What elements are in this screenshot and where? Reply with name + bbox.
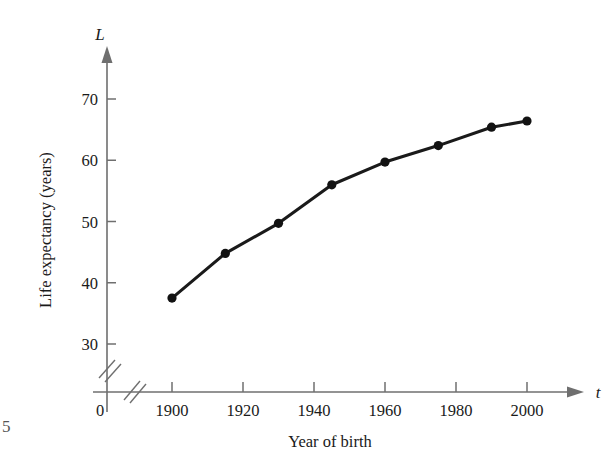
data-point-1915	[221, 249, 230, 258]
x-axis-title: Year of birth	[288, 432, 372, 451]
data-point-1930	[274, 219, 283, 228]
data-point-1990	[487, 123, 496, 132]
y-axis-title: Life expectancy (years)	[36, 152, 55, 308]
y-tick-label-70: 70	[82, 90, 99, 109]
page-margin-number: 5	[2, 417, 11, 436]
x-axis-variable-label: t	[596, 383, 602, 402]
y-axis-break-marks	[99, 360, 121, 382]
x-tick-label-1900: 1900	[156, 401, 189, 420]
y-axis-variable-label: L	[94, 25, 104, 44]
figure-container: 70 60 50 40 30 L Life expectancy (years)	[0, 0, 616, 467]
y-axis-group: 70 60 50 40 30 L Life expectancy (years)	[36, 25, 121, 412]
data-point-1945	[327, 180, 336, 189]
x-tick-label-1920: 1920	[227, 401, 260, 420]
life-expectancy-line-chart: 70 60 50 40 30 L Life expectancy (years)	[0, 0, 616, 467]
y-tick-label-50: 50	[82, 213, 99, 232]
data-series-life-expectancy	[167, 116, 531, 302]
x-tick-label-1960: 1960	[369, 401, 402, 420]
data-point-1960	[380, 158, 389, 167]
x-tick-label-1980: 1980	[440, 401, 473, 420]
y-tick-label-40: 40	[82, 274, 99, 293]
x-axis-arrow-icon	[567, 387, 584, 398]
y-tick-label-30: 30	[82, 335, 99, 354]
data-point-1900	[167, 294, 176, 303]
y-tick-label-60: 60	[82, 151, 99, 170]
data-point-1975	[434, 141, 443, 150]
origin-label: 0	[96, 401, 104, 420]
x-tick-label-1940: 1940	[298, 401, 331, 420]
y-axis-arrow-icon	[102, 46, 113, 63]
x-axis-group: 1900 1920 1940 1960 1980 2000 0 t Year o…	[93, 381, 602, 451]
data-point-2000	[522, 116, 531, 125]
x-tick-label-2000: 2000	[511, 401, 544, 420]
data-polyline	[172, 121, 527, 298]
